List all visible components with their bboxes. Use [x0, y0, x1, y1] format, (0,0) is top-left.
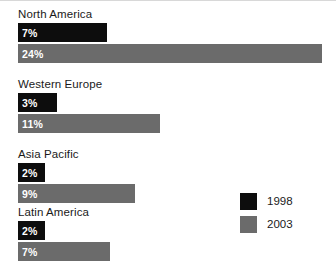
bar-value-label: 2%: [22, 225, 38, 237]
legend-swatch-icon: [240, 193, 257, 210]
bar-value-label: 7%: [22, 246, 38, 258]
legend-label: 1998: [267, 194, 293, 208]
category-label: North America: [18, 8, 92, 21]
bar-2003: 11%: [18, 114, 160, 133]
bar-value-label: 2%: [22, 167, 38, 179]
bar-1998: 7%: [18, 23, 107, 42]
category-label: Latin America: [18, 206, 89, 219]
category-label: Western Europe: [18, 78, 102, 91]
bar-1998: 2%: [18, 163, 45, 182]
bar-chart: North America 7% 24% Western Europe 3% 1…: [0, 0, 336, 270]
category-label: Asia Pacific: [18, 148, 79, 161]
bar-2003: 24%: [18, 44, 322, 63]
bar-2003: 9%: [18, 184, 135, 203]
bar-1998: 2%: [18, 221, 45, 240]
bar-value-label: 9%: [22, 188, 38, 200]
legend-label: 2003: [267, 217, 293, 231]
bar-value-label: 7%: [22, 27, 38, 39]
bar-value-label: 24%: [22, 48, 44, 60]
bar-value-label: 11%: [22, 118, 43, 130]
bar-1998: 3%: [18, 93, 57, 112]
bar-2003: 7%: [18, 242, 110, 261]
legend-swatch-icon: [240, 216, 257, 233]
bar-value-label: 3%: [22, 97, 38, 109]
